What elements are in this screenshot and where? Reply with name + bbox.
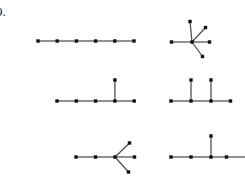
- graph-node: [36, 39, 39, 42]
- graph-node: [94, 155, 97, 158]
- graph-edges: [171, 136, 245, 157]
- graph-node: [209, 155, 212, 158]
- graph-node: [113, 39, 116, 42]
- graph-node: [170, 40, 173, 43]
- graph-node: [169, 99, 172, 102]
- graph-node: [229, 99, 232, 102]
- graph-edges: [171, 80, 231, 101]
- graph-figure-canvas: [0, 0, 245, 186]
- graph-node: [189, 155, 192, 158]
- graph-edge: [190, 22, 192, 43]
- graph-node: [204, 26, 207, 29]
- path-three-with-three-way-fan: [74, 141, 136, 173]
- graph-node: [209, 78, 212, 81]
- graph-node: [94, 99, 97, 102]
- graph-node: [169, 155, 172, 158]
- path-five-with-branch-at-fourth: [55, 78, 136, 102]
- graph-node: [132, 39, 135, 42]
- graph-node: [133, 99, 136, 102]
- graph-edges: [57, 80, 134, 101]
- graph-edge: [115, 157, 129, 172]
- graph-node: [208, 40, 211, 43]
- graph-node: [113, 99, 116, 102]
- graph-node: [127, 170, 130, 173]
- path-four-with-branch-at-third: [169, 134, 245, 158]
- graph-node: [113, 155, 116, 158]
- graph-node: [74, 155, 77, 158]
- graph-node: [201, 55, 204, 58]
- graph-nodes: [169, 134, 228, 158]
- graph-node: [75, 39, 78, 42]
- path-four-with-two-branches: [169, 78, 232, 102]
- graph-node: [128, 141, 131, 144]
- graph-node: [209, 134, 212, 137]
- graph-node: [189, 78, 192, 81]
- graph-node: [133, 155, 136, 158]
- graph-node: [94, 39, 97, 42]
- graph-node: [189, 99, 192, 102]
- graph-edge: [115, 143, 130, 157]
- graph-node: [209, 99, 212, 102]
- graph-node: [113, 78, 116, 81]
- path-six-nodes: [36, 39, 135, 42]
- graph-node: [190, 40, 193, 43]
- graph-node: [75, 99, 78, 102]
- graph-node: [56, 39, 59, 42]
- graph-nodes: [169, 78, 232, 102]
- graph-nodes: [55, 78, 136, 102]
- graphs-layer: [36, 20, 245, 174]
- graph-node: [225, 155, 228, 158]
- figure-page: 9.: [0, 0, 245, 186]
- graph-node: [188, 20, 191, 23]
- graph-node: [55, 99, 58, 102]
- star-five-leaves: [170, 20, 211, 58]
- graph-edge: [192, 42, 203, 57]
- graph-edge: [192, 28, 206, 43]
- graph-edges: [76, 143, 135, 172]
